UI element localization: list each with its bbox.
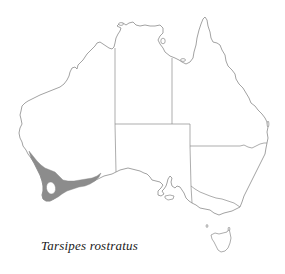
australia-map (0, 0, 285, 274)
groote-eylandt-outline (161, 38, 165, 44)
king-island-outline (206, 225, 208, 228)
tasmania-outline (211, 229, 231, 252)
fraser-island-outline (267, 121, 269, 127)
mornington-island-outline (181, 59, 186, 62)
flinders-island-outline (228, 227, 230, 231)
species-name-label: Tarsipes rostratus (41, 238, 138, 254)
kangaroo-island-outline (165, 195, 174, 200)
distribution-map-figure: Tarsipes rostratus (0, 0, 285, 274)
melville-island-outline (119, 23, 124, 26)
